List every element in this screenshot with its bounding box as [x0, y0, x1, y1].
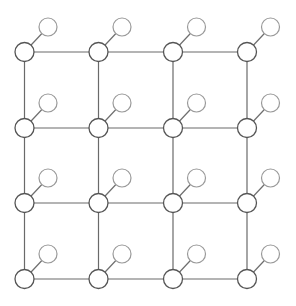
main-node [164, 270, 183, 289]
aux-node [113, 169, 131, 187]
grid-graph-diagram [0, 0, 296, 306]
aux-node [262, 169, 280, 187]
aux-node [262, 94, 280, 112]
aux-node [262, 18, 280, 36]
main-node [164, 119, 183, 138]
main-node [238, 43, 257, 62]
aux-node [39, 169, 57, 187]
aux-node [113, 18, 131, 36]
aux-node [113, 94, 131, 112]
aux-node [188, 94, 206, 112]
aux-node [39, 18, 57, 36]
main-node [15, 119, 34, 138]
lattice-edges [25, 52, 248, 279]
main-node [238, 194, 257, 213]
main-node [89, 43, 108, 62]
main-node [15, 270, 34, 289]
aux-node [113, 245, 131, 263]
aux-node [188, 245, 206, 263]
aux-node [188, 18, 206, 36]
main-node [15, 43, 34, 62]
aux-node [188, 169, 206, 187]
main-node [164, 194, 183, 213]
aux-node [39, 94, 57, 112]
main-node [89, 270, 108, 289]
auxiliary-links [25, 27, 271, 279]
main-node [89, 194, 108, 213]
main-node [15, 194, 34, 213]
main-node [238, 270, 257, 289]
aux-node [262, 245, 280, 263]
main-node [89, 119, 108, 138]
main-node [238, 119, 257, 138]
main-node [164, 43, 183, 62]
aux-node [39, 245, 57, 263]
